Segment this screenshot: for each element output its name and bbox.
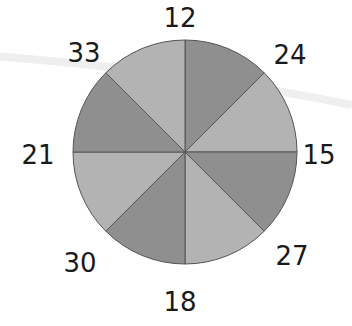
- spinner-label: 12: [163, 5, 196, 31]
- spinner-label: 21: [21, 142, 54, 168]
- spinner-label: 15: [302, 142, 335, 168]
- spinner-label: 33: [67, 40, 100, 66]
- spinner-label: 30: [63, 250, 96, 276]
- spinner-label: 27: [275, 243, 308, 269]
- spinner-label: 24: [273, 42, 306, 68]
- spinner-label: 18: [163, 289, 196, 315]
